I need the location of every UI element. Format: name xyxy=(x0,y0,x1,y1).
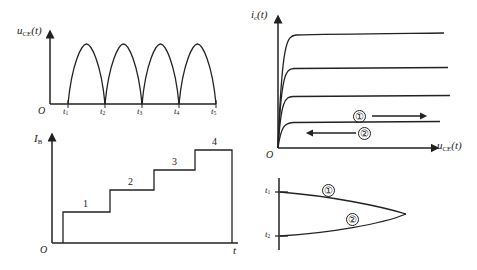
staircase-step-label-4: 4 xyxy=(212,137,217,147)
locus-tick-label-t1: t1 xyxy=(265,186,270,196)
voltage-hump-1 xyxy=(68,44,105,104)
ic-x-axis-label: uCE(t) xyxy=(437,140,462,152)
voltage-tick-label-t2: t2 xyxy=(100,107,105,117)
ic-origin-label: O xyxy=(266,150,273,160)
voltage-y-axis-label: uCE(t) xyxy=(17,25,42,37)
staircase-step-label-2: 2 xyxy=(128,177,133,187)
panel-base-current-staircase xyxy=(52,140,238,243)
voltage-origin-label: O xyxy=(38,106,45,116)
locus-annotation-circle-two: ② xyxy=(346,213,359,226)
locus-upper-branch xyxy=(280,192,406,214)
figure-vector-canvas xyxy=(0,0,477,270)
annotation-circle-two-lower: ② xyxy=(358,127,371,140)
voltage-tick-label-t5: t5 xyxy=(211,107,216,117)
ib-y-axis-label: IB xyxy=(34,133,42,145)
voltage-hump-4 xyxy=(179,44,216,104)
ib-x-axis-label: t xyxy=(233,245,236,256)
locus-annotation-circle-one: ① xyxy=(322,184,335,197)
staircase-step-label-3: 3 xyxy=(172,157,177,167)
technical-figure: uCE(t) O t1 t2 t3 t4 t5 ic(t) uCE(t) O ①… xyxy=(0,0,477,270)
staircase-path xyxy=(63,150,232,243)
ib-origin-label: O xyxy=(40,245,47,255)
voltage-hump-2 xyxy=(105,44,142,104)
panel-load-locus xyxy=(275,178,406,250)
voltage-tick-label-t3: t3 xyxy=(137,107,142,117)
voltage-tick-label-t4: t4 xyxy=(174,107,179,117)
staircase-step-label-1: 1 xyxy=(83,199,88,209)
panel-rectified-voltage xyxy=(50,37,216,108)
locus-tick-marks xyxy=(275,192,288,236)
voltage-tick-label-t1: t1 xyxy=(63,107,68,117)
locus-lower-branch xyxy=(280,214,406,236)
voltage-hump-3 xyxy=(142,44,179,104)
ic-y-axis-label: ic(t) xyxy=(251,9,267,21)
annotation-circle-one-upper: ① xyxy=(353,110,366,123)
locus-tick-label-t2: t2 xyxy=(265,230,270,240)
